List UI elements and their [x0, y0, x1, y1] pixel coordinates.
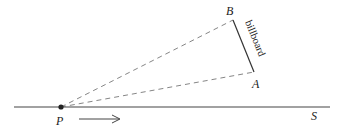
label-a: A — [251, 77, 260, 91]
sightline-pa — [61, 72, 254, 107]
point-p — [58, 104, 63, 109]
label-b: B — [226, 4, 234, 18]
label-s: S — [311, 109, 317, 123]
label-p: P — [55, 114, 64, 128]
billboard-label: billboard — [243, 19, 268, 59]
sightline-pb — [61, 20, 233, 107]
billboard-diagram: P B A S billboard — [0, 0, 345, 136]
